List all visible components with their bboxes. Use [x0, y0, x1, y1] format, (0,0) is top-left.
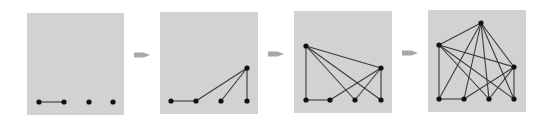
graph-node — [461, 96, 466, 101]
graph-node — [61, 99, 66, 104]
panel-step-3 — [294, 11, 392, 113]
graph-node — [436, 96, 441, 101]
graph-node — [352, 97, 357, 102]
graph-node — [36, 99, 41, 104]
graph-node — [218, 98, 223, 103]
graph-node — [303, 43, 308, 48]
panel-background — [27, 13, 124, 115]
graph-construction-diagram — [0, 0, 551, 121]
graph-node — [244, 98, 249, 103]
graph-node — [378, 97, 383, 102]
graph-node — [511, 64, 516, 69]
graph-node — [511, 96, 516, 101]
graph-node — [436, 42, 441, 47]
graph-node — [378, 65, 383, 70]
graph-node — [86, 99, 91, 104]
graph-node — [110, 99, 115, 104]
panel-step-4 — [428, 10, 526, 112]
panel-step-2 — [160, 12, 258, 114]
panel-step-1 — [27, 13, 124, 115]
graph-node — [478, 20, 483, 25]
graph-node — [327, 97, 332, 102]
panel-background — [160, 12, 258, 114]
arrow-right-icon — [134, 53, 150, 58]
graph-node — [303, 97, 308, 102]
graph-node — [244, 65, 249, 70]
graph-node — [168, 98, 173, 103]
graph-node — [486, 96, 491, 101]
arrow-right-icon — [402, 51, 418, 56]
graph-node — [193, 98, 198, 103]
arrow-right-icon — [268, 52, 284, 57]
